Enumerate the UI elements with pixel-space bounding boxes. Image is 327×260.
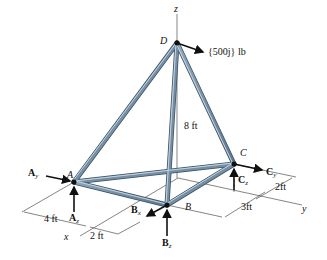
dim-3ft: 3ft	[241, 201, 252, 212]
Cy-arrow	[234, 164, 262, 170]
reaction-Ay-label: Ay	[28, 167, 39, 180]
point-B-label: B	[185, 201, 191, 212]
height-label: 8 ft	[184, 120, 198, 131]
reaction-Bx-label: Bx	[131, 204, 142, 217]
joint-A	[72, 180, 77, 185]
reaction-Bz-label: Bz	[162, 237, 172, 250]
reaction-Cz-label: Cz	[238, 174, 248, 187]
dim-2ft-bottom: 2 ft	[90, 230, 104, 241]
x-axis-label: x	[63, 231, 69, 242]
point-C-label: C	[240, 147, 247, 158]
load-label: {500j} lb	[208, 46, 246, 57]
dim-4ft: 4 ft	[44, 213, 58, 224]
Bx-arrow	[147, 205, 167, 216]
reaction-Cy-label: Cy	[266, 166, 277, 179]
z-axis-label: z	[173, 3, 178, 14]
dim-2ft-right: 2ft	[275, 181, 286, 192]
space-truss-diagram: z x y D A B C {500j} lb 8 ft 4 ft 2 ft 2…	[0, 0, 327, 260]
y-axis-label: y	[301, 203, 307, 214]
truss-members	[73, 43, 234, 205]
joints	[72, 41, 237, 208]
point-D-label: D	[159, 35, 168, 46]
point-A-label: A	[66, 169, 74, 180]
